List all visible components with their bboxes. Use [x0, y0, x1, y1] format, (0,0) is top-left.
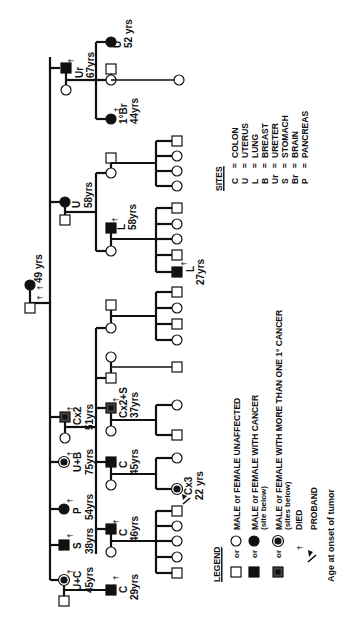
svg-text:58yrs: 58yrs [83, 181, 94, 208]
legend-unaffected-male-icon [231, 567, 241, 577]
svg-text:45yrs: 45yrs [84, 566, 95, 593]
g2-p-member: † P 54yrs [50, 493, 95, 520]
died-marker: † [35, 286, 44, 290]
svg-text:1°Br: 1°Br [118, 103, 129, 124]
svg-text:†: † [65, 499, 74, 503]
svg-text:Age at onset of tumor: Age at onset of tumor [326, 489, 336, 582]
spouse-female-icon [106, 352, 116, 362]
spouse-male-icon [106, 153, 116, 163]
svg-text:†: † [66, 59, 75, 63]
svg-text:U: U [240, 178, 250, 184]
svg-text:†: † [65, 534, 74, 538]
svg-text:Cx3: Cx3 [183, 476, 194, 495]
svg-text:or: or [274, 550, 283, 558]
g4-female-icon [172, 521, 182, 531]
svg-text:46yrs: 46yrs [129, 515, 140, 542]
svg-text:Br: Br [290, 174, 300, 184]
g2-s-member: † S 38yrs [50, 527, 95, 554]
spouse-male-icon [59, 596, 69, 606]
g3-female-icon [106, 323, 116, 333]
affected-female-icon [60, 197, 70, 207]
svg-text:†: † [111, 576, 120, 580]
svg-text:Cx2+S: Cx2+S [118, 387, 129, 418]
g4-female-icon [172, 335, 182, 345]
legend-unaffected-female-icon [231, 536, 241, 546]
g4-male-icon [172, 362, 182, 372]
g3-c46-affected-male-icon [106, 524, 116, 534]
g4-male-icon [172, 250, 182, 260]
g2-cx2-member: † Cx2 51yrs [50, 403, 96, 443]
svg-text:C: C [118, 586, 129, 593]
svg-text:67yrs: 67yrs [85, 51, 96, 78]
svg-text:P: P [72, 507, 83, 514]
sites-title: SITES [214, 166, 224, 191]
svg-text:COLON: COLON [230, 127, 240, 158]
spouse-female-icon [60, 433, 70, 443]
svg-text:=: = [280, 163, 290, 168]
svg-text:MALE or FEMALE UNAFFECTED: MALE or FEMALE UNAFFECTED [232, 398, 242, 530]
founder-age: 49 yrs [33, 254, 44, 283]
svg-text:44yrs: 44yrs [129, 97, 140, 124]
svg-text:PROBAND: PROBAND [309, 487, 319, 530]
g3-c45-affected-male-icon [106, 457, 116, 467]
g4-male-icon [172, 319, 182, 329]
svg-text:C: C [118, 529, 129, 536]
svg-text:BREAST: BREAST [260, 122, 270, 158]
svg-text:Cx2: Cx2 [72, 406, 83, 425]
svg-text:U: U [112, 41, 123, 48]
g4-female-icon [172, 303, 182, 313]
g4-female-icon [172, 234, 182, 244]
svg-text:URETER: URETER [270, 123, 280, 158]
g4-male-icon [172, 506, 182, 516]
svg-text:58yrs: 58yrs [127, 203, 138, 230]
affected-female-icon [59, 504, 69, 514]
spouse-female-icon [61, 85, 71, 95]
svg-text:=: = [250, 163, 260, 168]
spouse-male-icon [60, 215, 70, 225]
svg-text:22 yrs: 22 yrs [194, 471, 205, 500]
svg-text:(sites below): (sites below) [283, 481, 292, 530]
svg-text:=: = [260, 163, 270, 168]
g4-female-icon [172, 552, 182, 562]
svg-text:†: † [179, 262, 188, 266]
g4-female-icon [172, 181, 182, 191]
spouse-female-icon [106, 426, 116, 436]
svg-text:Ur: Ur [270, 174, 280, 184]
svg-text:†: † [110, 218, 119, 222]
svg-text:or: or [250, 550, 259, 558]
g3-female-icon [106, 168, 116, 178]
legend-affected-male-icon [249, 567, 259, 577]
g4-female-icon [174, 75, 184, 85]
g3-br-affected-female-icon [106, 114, 116, 124]
g4-female-icon [172, 453, 182, 463]
g4-male-icon [172, 136, 182, 146]
g4-male-icon [172, 430, 182, 440]
svg-text:52 yrs: 52 yrs [123, 19, 134, 48]
svg-text:U: U [71, 201, 82, 208]
affected-male-icon [59, 540, 69, 550]
svg-text:54yrs: 54yrs [84, 493, 95, 520]
legend: LEGEND or MALE or FEMALE UNAFFECTED or M… [212, 310, 336, 582]
founders: † † 49 yrs [25, 254, 50, 313]
g4-female-icon [172, 166, 182, 176]
g2-ur-member: † Ur 67yrs [50, 51, 96, 95]
svg-text:or: or [232, 550, 241, 558]
svg-text:S: S [72, 542, 83, 549]
svg-text:PANCREAS: PANCREAS [300, 111, 310, 158]
g4-l-affected-male-icon [172, 267, 182, 277]
spouse-female-icon [106, 547, 116, 557]
g4-female-icon [172, 219, 182, 229]
svg-text:BRAIN: BRAIN [290, 131, 300, 158]
legend-affected-female-icon [249, 536, 259, 546]
svg-text:75yrs: 75yrs [84, 448, 95, 475]
svg-text:P: P [300, 178, 310, 184]
legend-title: LEGEND [212, 547, 222, 582]
founder-father-square-icon [25, 303, 35, 313]
svg-text:=: = [300, 163, 310, 168]
g2-uc-member: † U+C 45yrs † C 29yrs [50, 566, 140, 606]
g4-male-icon [172, 568, 182, 578]
g4-female-icon [172, 400, 182, 410]
svg-text:27yrs: 27yrs [195, 258, 206, 285]
svg-text:DIED: DIED [294, 510, 304, 530]
svg-text:=: = [230, 163, 240, 168]
